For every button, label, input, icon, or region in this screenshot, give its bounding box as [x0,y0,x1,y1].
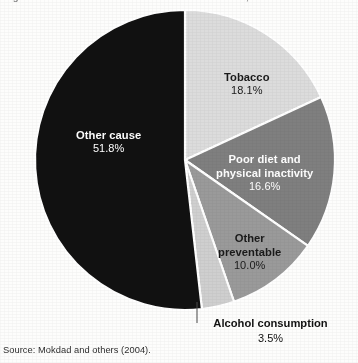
slice-label-poor-diet-line2: physical inactivity [216,166,313,180]
slice-label-other-preventable: Other preventable 10.0% [218,231,281,273]
slice-label-other-preventable-value: 10.0% [218,259,281,273]
slice-label-poor-diet-line1: Poor diet and [216,152,313,166]
pie-chart: Tobacco 18.1% Other cause 51.8% Poor die… [0,0,358,330]
slice-label-other-cause: Other cause 51.8% [76,128,141,156]
figure-container: Figure 1. Actual causes of death in the … [0,0,358,363]
slice-label-other-preventable-line2: preventable [218,245,281,259]
slice-label-tobacco-name: Tobacco [224,70,270,84]
source-note: Source: Mokdad and others (2004). [3,345,151,355]
slice-label-alcohol-consumption: Alcohol consumption 3.5% [183,316,358,345]
slice-label-poor-diet-value: 16.6% [216,180,313,194]
slice-label-other-cause-value: 51.8% [76,142,141,156]
slice-label-tobacco: Tobacco 18.1% [224,70,270,98]
slice-label-alcohol-name: Alcohol consumption [183,316,358,331]
slice-label-tobacco-value: 18.1% [224,84,270,98]
slice-label-alcohol-value: 3.5% [183,331,358,345]
slice-label-poor-diet: Poor diet and physical inactivity 16.6% [216,152,313,194]
pie-slice-other-cause [35,10,202,310]
slice-label-other-preventable-line1: Other [218,231,281,245]
slice-label-other-cause-name: Other cause [76,128,141,142]
